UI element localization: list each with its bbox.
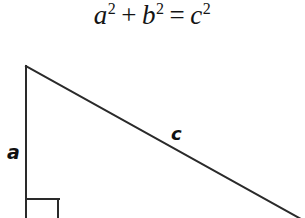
triangle-label-c: c bbox=[171, 125, 182, 143]
triangle-hypotenuse bbox=[26, 66, 301, 218]
pythagorean-theorem-figure: a2+b2=c2 a c bbox=[0, 0, 305, 218]
right-triangle-diagram bbox=[0, 0, 305, 218]
triangle-label-a: a bbox=[7, 143, 20, 162]
